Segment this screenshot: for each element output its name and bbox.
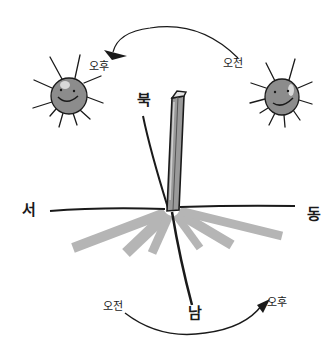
shadow-path-morning-label: 오전 xyxy=(103,301,122,312)
south-label: 남 xyxy=(188,306,202,321)
sundial-diagram: 북 남 서 동 오전 오후 오전 오후 xyxy=(0,0,334,357)
sun-path-arrowhead-icon xyxy=(104,50,127,60)
sun-path-morning-label: 오전 xyxy=(223,58,242,69)
gnomon-stick xyxy=(167,91,186,211)
west-label: 서 xyxy=(22,203,36,218)
morning-sun-icon xyxy=(250,59,312,127)
north-label: 북 xyxy=(137,93,151,108)
sun-path-afternoon-label: 오후 xyxy=(89,61,108,72)
north-line xyxy=(143,116,168,208)
shadow-path-afternoon-label: 오후 xyxy=(267,297,286,308)
sun-path-arc xyxy=(113,27,238,58)
east-label: 동 xyxy=(304,206,319,221)
